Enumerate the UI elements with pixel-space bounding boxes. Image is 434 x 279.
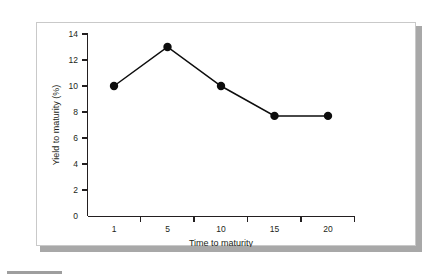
data-point-10: [217, 82, 225, 90]
data-point-group: [110, 43, 332, 120]
y-tick-label-12: 12: [69, 55, 79, 65]
chart-svg: 14 12 10 8 6 4 2 0: [37, 23, 417, 247]
data-point-1: [110, 82, 118, 90]
y-tick-label-8: 8: [73, 107, 78, 117]
y-axis-title: Yield to maturity (%): [51, 85, 61, 166]
data-point-15: [270, 112, 278, 120]
bottom-divider-rule: [7, 271, 62, 274]
screenshot-root: 14 12 10 8 6 4 2 0: [0, 0, 434, 279]
figure-card: 14 12 10 8 6 4 2 0: [36, 22, 416, 246]
x-tick-label-20: 20: [323, 224, 333, 234]
yield-curve-line: [114, 47, 328, 116]
x-tick-label-10: 10: [216, 224, 226, 234]
y-tick-label-10: 10: [69, 81, 79, 91]
data-point-20: [324, 112, 332, 120]
y-tick-label-6: 6: [73, 133, 78, 143]
x-tick-label-5: 5: [165, 224, 170, 234]
y-tick-label-4: 4: [73, 159, 78, 169]
x-axis-title: Time to maturity: [189, 238, 254, 247]
x-tick-group: [141, 217, 355, 223]
x-tick-label-15: 15: [270, 224, 280, 234]
y-tick-label-14: 14: [69, 29, 79, 39]
data-point-5: [163, 43, 171, 51]
line-chart: 14 12 10 8 6 4 2 0: [37, 23, 417, 247]
x-tick-label-group: 1 5 10 15 20: [112, 224, 333, 234]
y-tick-label-2: 2: [73, 185, 78, 195]
x-tick-label-1: 1: [112, 224, 117, 234]
y-tick-group: 14 12 10 8 6 4 2 0: [69, 29, 88, 221]
y-tick-label-0: 0: [73, 211, 78, 221]
